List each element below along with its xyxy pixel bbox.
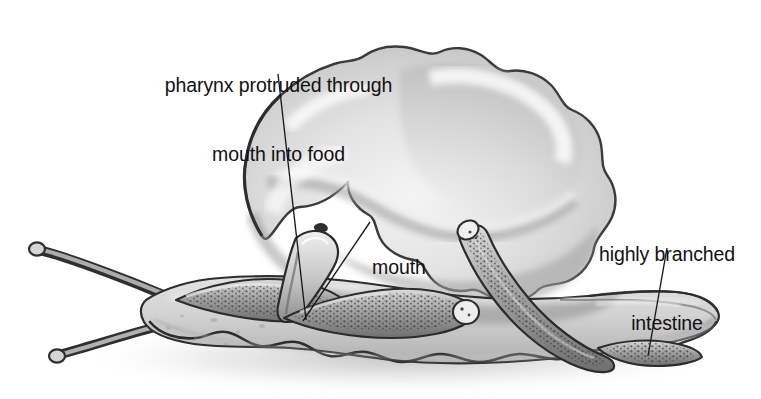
label-pharynx: pharynx protruded through mouth into foo… [152,28,405,212]
label-mouth: mouth [372,210,442,325]
head-tentacle-upper [29,242,176,300]
label-pharynx-line1: pharynx protruded through [152,74,405,97]
label-intestine: highly branched intestine [584,197,750,381]
label-intestine-line2: intestine [584,312,750,335]
label-pharynx-line2: mouth into food [152,143,405,166]
label-mouth-line1: mouth [372,256,442,279]
figure-canvas: pharynx protruded through mouth into foo… [0,0,761,399]
label-intestine-line1: highly branched [584,243,750,266]
